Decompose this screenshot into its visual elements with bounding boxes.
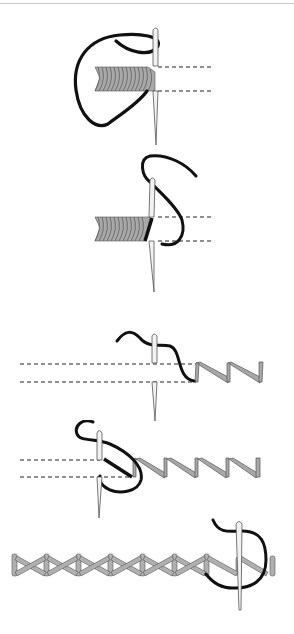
needle-icon bbox=[152, 334, 157, 421]
step-1-illustration bbox=[0, 20, 294, 150]
step-3-illustration bbox=[0, 320, 294, 425]
step-2-illustration bbox=[0, 150, 294, 300]
guide-lines bbox=[158, 67, 213, 91]
top-rule bbox=[0, 3, 294, 4]
herringbone-stitch-band bbox=[12, 554, 275, 576]
guide-lines bbox=[20, 364, 196, 382]
guide-lines bbox=[20, 460, 132, 477]
step-5-illustration bbox=[0, 510, 294, 634]
zigzag-stitches bbox=[133, 458, 260, 478]
thread bbox=[76, 421, 141, 492]
guide-lines bbox=[158, 217, 213, 241]
zigzag-stitches bbox=[195, 362, 263, 383]
needle-icon bbox=[97, 431, 102, 519]
step-4-illustration bbox=[0, 420, 294, 520]
needle-icon bbox=[149, 178, 155, 292]
